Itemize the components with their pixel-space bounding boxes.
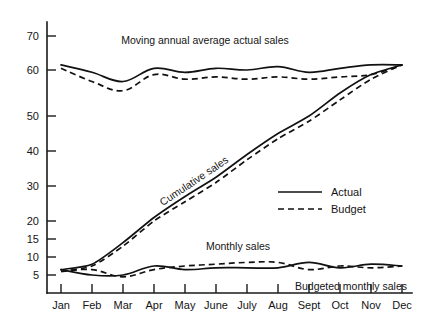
x-axis-tick-label: July: [237, 299, 257, 311]
x-axis-tick-label: Apr: [145, 299, 162, 311]
legend-label-budget: Budget: [331, 203, 366, 215]
y-axis-tick-label: 50: [27, 110, 39, 122]
y-axis-tick-label: 10: [27, 251, 39, 263]
x-axis-tick-label: Sept: [298, 299, 321, 311]
chart-container: 51015203040506070 JanFebMarAprMayJuneJul…: [0, 0, 424, 327]
series-line-moving-annual-average-actual: [61, 65, 402, 82]
x-axis-tick-label: Aug: [268, 299, 288, 311]
y-axis-tick-label: 70: [27, 30, 39, 42]
x-axis-tick-label: Nov: [361, 299, 381, 311]
x-axis-tick-label: Jan: [52, 299, 70, 311]
x-axis-tick-label: Mar: [114, 299, 133, 311]
y-axis-tick-label: 15: [27, 233, 39, 245]
chart-legend: ActualBudget: [278, 186, 366, 215]
legend-label-actual: Actual: [331, 186, 362, 198]
x-axis-tick-label: Feb: [83, 299, 102, 311]
moving-annual-average-label: Moving annual average actual sales: [121, 34, 289, 46]
x-axis-tick-label: May: [175, 299, 196, 311]
chart-axes: [47, 22, 412, 293]
y-axis-tick-label: 30: [27, 180, 39, 192]
x-axis-tick-label: Oct: [331, 299, 348, 311]
x-axis-tick-label: Dec: [392, 299, 412, 311]
series-line-monthly-budget: [61, 262, 402, 277]
monthly-sales-label: Monthly sales: [206, 240, 270, 252]
sales-line-chart: 51015203040506070 JanFebMarAprMayJuneJul…: [0, 0, 424, 327]
series-line-cumulative-actual: [61, 65, 402, 270]
x-axis-tick-label: June: [204, 299, 228, 311]
series-line-monthly-actual: [61, 262, 402, 276]
chart-annotations-group: Moving annual average actual salesCumula…: [121, 34, 407, 292]
y-axis-tick-label: 5: [33, 269, 39, 281]
y-axis-ticks: 51015203040506070: [27, 30, 56, 281]
y-axis-tick-label: 40: [27, 145, 39, 157]
y-axis-tick-label: 20: [27, 215, 39, 227]
y-axis-tick-label: 60: [27, 64, 39, 76]
budgeted-monthly-sales-label: Budgeted monthly sales: [295, 280, 407, 292]
